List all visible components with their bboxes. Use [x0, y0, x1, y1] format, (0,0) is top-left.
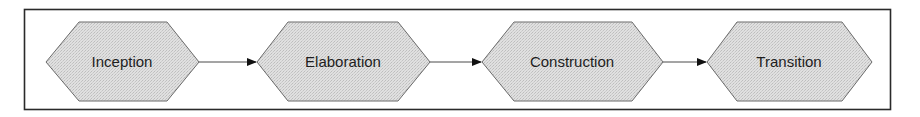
phase-label-inception: Inception	[92, 53, 153, 70]
phase-label-transition: Transition	[756, 53, 821, 70]
phase-transition[interactable]: Transition	[707, 22, 872, 101]
phase-inception[interactable]: Inception	[46, 22, 199, 101]
phase-label-elaboration: Elaboration	[305, 53, 381, 70]
phase-label-construction: Construction	[530, 53, 614, 70]
phase-construction[interactable]: Construction	[482, 22, 663, 101]
phase-flow-diagram: Inception Elaboration Construction Trans…	[0, 0, 920, 117]
phase-elaboration[interactable]: Elaboration	[257, 22, 430, 101]
